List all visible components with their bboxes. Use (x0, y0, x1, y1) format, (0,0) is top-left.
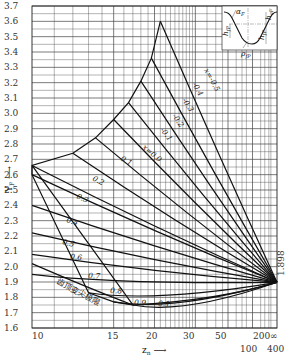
x-tick-label: 200 (253, 331, 270, 341)
curve-label: 0.6 (70, 252, 83, 262)
boundary-label: 齿顶变尖极限 (55, 276, 102, 307)
y-tick-label: 2.8 (4, 139, 19, 149)
y-tick-label: 1.8 (4, 292, 19, 302)
y-tick-label: 3.2 (4, 78, 18, 88)
y-tick-label: 2.3 (4, 216, 19, 226)
y-tick-label: 3.4 (4, 47, 19, 57)
x-tick-label: 15 (107, 331, 119, 341)
y-tick-label: 3.7 (4, 1, 19, 11)
curve-label: -0.2 (170, 112, 186, 129)
x-tick-label: ∞ (270, 331, 278, 341)
curve-label: 0.5 (61, 237, 75, 249)
y-tick-label: 3.6 (4, 16, 19, 26)
curve-label: 0.1 (119, 154, 134, 168)
curve-label: 0.7 (88, 271, 101, 281)
y-tick-label: 2.2 (4, 231, 18, 241)
y-tick-label: 1.6 (4, 323, 19, 333)
curve-label: x=-0.5 (202, 67, 222, 93)
y-tick-label: 2.9 (4, 124, 19, 134)
y-axis-label: YF ⟶ (4, 166, 15, 193)
curve-label: 0.9 (134, 298, 146, 307)
y-tick-label: 2.4 (4, 200, 19, 210)
y-tick-label: 3.1 (4, 93, 18, 103)
y-tick-label: 2.1 (4, 246, 18, 256)
x-tick-label: 100 (240, 344, 257, 354)
y-f-chart: αF haF hfP hfP ρfP 3.73.63.53.43.33.23.1… (0, 0, 290, 359)
y-tick-label: 2.7 (4, 154, 19, 164)
y-tick-label: 2.0 (4, 262, 19, 272)
y-tick-label: 3.0 (4, 108, 19, 118)
curve-x=-0.3 (141, 81, 277, 282)
y-tick-label: 3.3 (4, 62, 19, 72)
curve-label: 0.2 (91, 174, 106, 188)
convergence-value-label: 1.898 (276, 250, 286, 276)
y-tick-label: 3.5 (4, 32, 19, 42)
curve-x=-0.2 (129, 103, 277, 283)
x-tick-label: 30 (183, 331, 195, 341)
x-tick-label: 20 (146, 331, 158, 341)
y-tick-label: 1.9 (4, 277, 19, 287)
x-tick-label: 10 (32, 331, 44, 341)
x-axis-label: zn ⟶ (142, 345, 166, 356)
curve-labels: x=-0.5-0.4-0.3-0.2-0.1x=0.00.10.20.30.40… (61, 67, 222, 309)
curve-label: 0.1 (158, 299, 170, 308)
curve-label: 0.8 (110, 286, 123, 296)
x-tick-label: 400 (267, 344, 284, 354)
y-tick-label: 1.7 (4, 308, 19, 318)
x-tick-label: 50 (215, 331, 227, 341)
inset-rho-label: ρfP (240, 49, 251, 60)
curve-label: 0.4 (65, 215, 79, 227)
